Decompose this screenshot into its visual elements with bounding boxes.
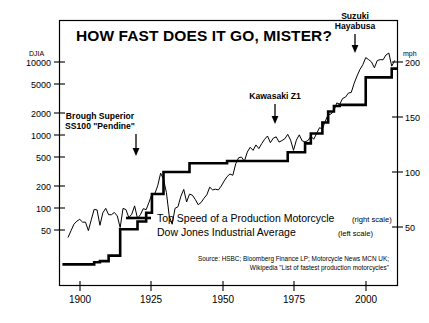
series-line-djia [68,53,394,237]
x-tick-label-2000: 2000 [355,294,378,305]
left-tick-label-50: 50 [41,226,51,236]
left-tick-label-100: 100 [36,204,51,214]
annotation-brough-arrow-head [133,148,140,156]
legend-label-top-speed: Top Speed of a Production Motorcycle [157,212,335,224]
annotation-suzuki-line2: Hayabusa [335,21,376,31]
annotation-kawasaki-label: Kawasaki Z1 [249,91,301,101]
annotation-brough-line2: SS100 "Pendine" [65,121,135,131]
chart-container: HOW FAST DOES IT GO, MISTER? DJIA mph 10… [0,0,429,323]
page-title: HOW FAST DOES IT GO, MISTER? [76,27,332,44]
x-tick-label-1925: 1925 [140,294,163,305]
source-note-line1: Source: HSBC; Bloomberg Finance LP; Moto… [198,255,389,263]
left-tick-label-2000: 2000 [31,109,51,119]
left-tick-label-5000: 5000 [31,80,51,90]
x-axis-ticks: 1900 1925 1950 1975 2000 [69,281,378,305]
left-tick-label-200: 200 [36,182,51,192]
left-axis-unit-label: DJIA [29,50,45,57]
x-tick-label-1975: 1975 [283,294,306,305]
annotation-kawasaki-z1: Kawasaki Z1 [249,91,301,124]
x-tick-label-1900: 1900 [69,294,92,305]
source-note-line2: Wikipedia "List of fastest production mo… [250,264,389,272]
annotation-suzuki-line1: Suzuki [341,11,369,21]
annotation-suzuki-hayabusa: Suzuki Hayabusa [335,11,376,53]
right-tick-label-100: 100 [405,168,420,178]
chart-canvas: HOW FAST DOES IT GO, MISTER? DJIA mph 10… [0,0,429,323]
left-tick-label-500: 500 [36,153,51,163]
legend-label-djia: Dow Jones Industrial Average [157,226,296,238]
right-tick-label-150: 150 [405,113,420,123]
legend-scale-top-speed: (right scale) [352,215,392,224]
annotation-brough-line1: Brough Superior [66,111,135,121]
left-tick-label-1000: 1000 [31,131,51,141]
source-note: Source: HSBC; Bloomberg Finance LP; Moto… [198,255,389,272]
annotation-brough-superior: Brough Superior SS100 "Pendine" [65,111,139,156]
right-axis-ticks: 200 150 100 50 [392,58,420,233]
left-tick-label-10000: 10000 [26,58,51,68]
right-tick-label-200: 200 [405,58,420,68]
right-tick-label-50: 50 [405,223,415,233]
legend-scale-djia: (left scale) [338,229,373,238]
chart-legend: Top Speed of a Production Motorcycle (ri… [126,212,392,238]
plot-frame [60,21,398,286]
annotation-suzuki-arrow-head [352,45,359,53]
annotation-kawasaki-arrow-head [272,116,279,124]
x-tick-label-1950: 1950 [212,294,235,305]
